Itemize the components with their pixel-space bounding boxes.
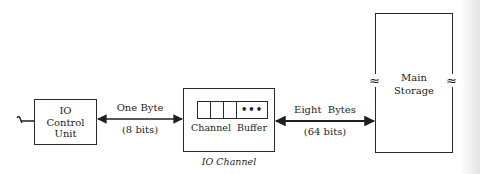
- channel-buffer: •••: [197, 101, 268, 119]
- main-storage-line-1: Main: [376, 71, 452, 84]
- eight-bytes-label: Eight Bytes: [276, 104, 374, 115]
- buffer-cell-2: [211, 102, 224, 118]
- external-break-line: [17, 117, 34, 124]
- io-control-unit-line-3: Unit: [35, 128, 96, 140]
- io-control-unit-box: IO Control Unit: [34, 99, 97, 145]
- break-right-icon: ≈: [446, 74, 457, 87]
- one-byte-label: One Byte: [98, 102, 182, 113]
- io-control-unit-line-2: Control: [35, 117, 96, 129]
- io-control-unit-line-1: IO: [35, 105, 96, 117]
- ellipsis-icon: •••: [237, 102, 267, 118]
- buffer-cell-1: [198, 102, 211, 118]
- buffer-cell-3: [224, 102, 237, 118]
- main-storage-label: Main Storage: [376, 71, 452, 97]
- io-channel-caption: IO Channel: [183, 156, 275, 167]
- break-left-icon: ≈: [369, 74, 380, 87]
- io-control-unit-label: IO Control Unit: [35, 105, 96, 140]
- io-channel-box: ••• Channel Buffer: [183, 88, 275, 152]
- channel-buffer-label: Channel Buffer: [184, 122, 274, 133]
- main-storage-line-2: Storage: [376, 84, 452, 97]
- sixty-four-bits-label: (64 bits): [276, 126, 374, 137]
- eight-bits-label: (8 bits): [98, 124, 182, 135]
- main-storage-box: Main Storage: [375, 13, 453, 153]
